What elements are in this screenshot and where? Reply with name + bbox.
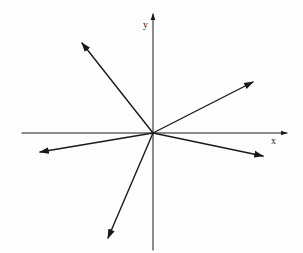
y-axis-label: y xyxy=(143,19,148,30)
vector-arrow-left-slightly-down xyxy=(40,133,153,152)
vector-arrow-up-left xyxy=(82,43,153,133)
vector-arrow-right-slightly-down xyxy=(153,133,263,156)
vector-arrow-down-left-steep xyxy=(108,133,153,238)
vectors xyxy=(40,43,263,238)
vector-diagram: x y xyxy=(0,0,303,253)
vector-arrow-up-right xyxy=(153,82,253,133)
x-axis-label: x xyxy=(271,135,276,146)
vector-diagram-svg: x y xyxy=(0,0,303,253)
